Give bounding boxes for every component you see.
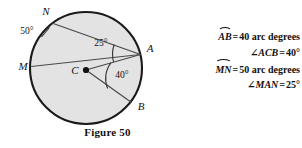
arc-notation-MN: MN (215, 61, 231, 78)
center-point-dot (83, 67, 89, 73)
point-label-N: N (41, 5, 50, 17)
statement-arc-AB: AB=40 arc degrees (168, 28, 300, 45)
angle-label-40: 40° (115, 70, 129, 80)
statement-value-angle-MAN: 25° (286, 79, 300, 90)
point-label-C: C (71, 64, 79, 76)
statement-value-angle-ACB: 40° (286, 47, 300, 58)
angle-notation-ACB: ACB (258, 47, 278, 58)
angle-label-50: 50° (20, 26, 34, 36)
point-label-A: A (146, 42, 154, 54)
angle-symbol: ∠ (247, 79, 255, 90)
figure-panel: N M A B C 50° 25° 40° AB=40 arc degrees … (0, 0, 302, 148)
point-label-B: B (138, 100, 145, 112)
equals-sign: = (278, 47, 286, 58)
angle-label-25: 25° (94, 38, 108, 48)
statement-angle-ACB: ∠ACB=40° (168, 45, 300, 61)
statement-value-arc-AB: 40 arc degrees (239, 31, 300, 42)
statement-list: AB=40 arc degrees ∠ACB=40° MN=50 arc deg… (168, 28, 300, 93)
statement-arc-MN: MN=50 arc degrees (168, 61, 300, 78)
arc-notation-AB: AB (218, 28, 231, 45)
circle-diagram: N M A B C 50° 25° 40° (0, 0, 175, 130)
angle-notation-MAN: MAN (256, 79, 279, 90)
statement-value-arc-MN: 50 arc degrees (239, 64, 300, 75)
equals-sign: = (278, 79, 286, 90)
statement-angle-MAN: ∠MAN=25° (168, 77, 300, 93)
point-label-M: M (17, 60, 28, 72)
figure-caption: Figure 50 (0, 126, 215, 138)
